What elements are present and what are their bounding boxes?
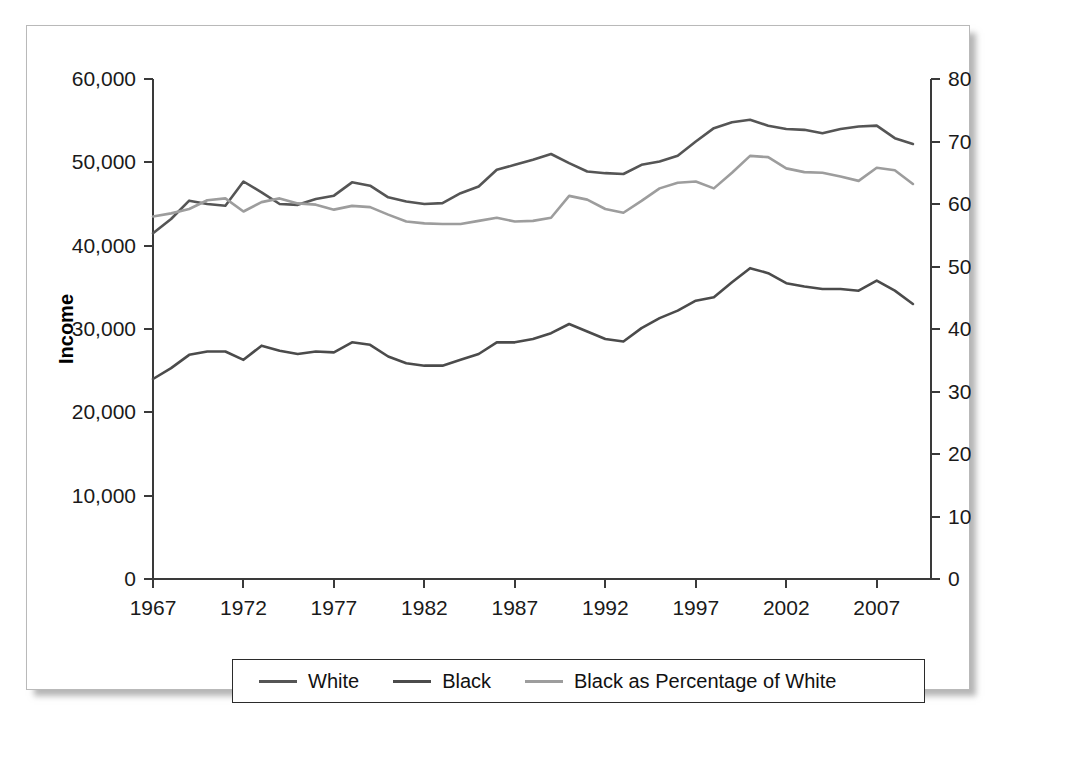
y-axis-left-tick-label: 50,000 (72, 150, 136, 173)
y-axis-left-tick-label: 40,000 (72, 234, 136, 257)
legend-entry: White (259, 670, 359, 693)
legend-label: Black (442, 670, 491, 693)
y-axis-right-tick-label: 40 (948, 317, 971, 340)
x-axis-tick-label: 2002 (763, 596, 810, 619)
y-axis-left-tick-label: 0 (124, 567, 136, 590)
series-line-white (153, 120, 913, 233)
y-axis-left-tick-label: 60,000 (72, 67, 136, 90)
x-axis-tick-label: 2007 (853, 596, 900, 619)
y-axis-right-tick-label: 0 (948, 567, 960, 590)
legend-entry: Black as Percentage of White (525, 670, 836, 693)
series-line-black (153, 268, 913, 379)
y-axis-right-tick-label: 20 (948, 442, 971, 465)
chart-legend: WhiteBlackBlack as Percentage of White (232, 659, 925, 703)
x-axis-tick-label: 1972 (220, 596, 267, 619)
y-axis-right-tick-label: 30 (948, 380, 971, 403)
x-axis-tick-label: 1982 (401, 596, 448, 619)
legend-entry: Black (393, 670, 491, 693)
x-axis-tick-label: 1992 (582, 596, 629, 619)
y-axis-left-tick-label: 10,000 (72, 484, 136, 507)
figure-frame: 010,00020,00030,00040,00050,00060,000Inc… (26, 25, 970, 690)
x-axis-tick-label: 1977 (311, 596, 358, 619)
chart-plot-area: 010,00020,00030,00040,00050,00060,000Inc… (27, 26, 971, 691)
y-axis-left-title: Income (55, 294, 77, 364)
y-axis-left-tick-label: 30,000 (72, 317, 136, 340)
y-axis-right-tick-label: 60 (948, 192, 971, 215)
y-axis-right-tick-label: 80 (948, 67, 971, 90)
y-axis-right-tick-label: 10 (948, 505, 971, 528)
y-axis-right-tick-label: 50 (948, 255, 971, 278)
y-axis-left-tick-label: 20,000 (72, 400, 136, 423)
legend-swatch-line-icon (393, 680, 431, 683)
legend-swatch-line-icon (259, 680, 297, 683)
y-axis-right-tick-label: 70 (948, 130, 971, 153)
legend-swatch-line-icon (525, 680, 563, 683)
x-axis-tick-label: 1967 (130, 596, 177, 619)
x-axis-tick-label: 1987 (492, 596, 539, 619)
legend-label: Black as Percentage of White (574, 670, 836, 693)
series-line-black-as-percentage-of-white (153, 156, 913, 224)
legend-label: White (308, 670, 359, 693)
chart-svg: 010,00020,00030,00040,00050,00060,000Inc… (27, 26, 971, 691)
x-axis-tick-label: 1997 (672, 596, 719, 619)
